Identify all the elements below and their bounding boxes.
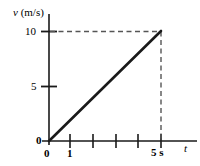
y-axis-title: v (m/s)	[13, 7, 44, 18]
y-tick-label-10: 10	[25, 26, 36, 37]
x-tick-label-0: 0	[44, 148, 50, 159]
velocity-time-graph-figure: v (m/s) 10 5 0 0 1 5 s t	[0, 0, 200, 166]
x-tick-label-1: 1	[67, 148, 73, 159]
y-tick-label-5: 5	[31, 81, 37, 92]
y-tick-label-0: 0	[36, 135, 42, 146]
x-tick-label-5: 5 s	[151, 147, 164, 158]
y-axis-title-units: (m/s)	[18, 6, 44, 18]
velocity-data-line	[49, 31, 161, 141]
x-axis-title: t	[184, 143, 187, 154]
